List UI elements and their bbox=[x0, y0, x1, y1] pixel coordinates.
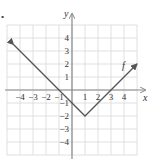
bullet-marker: • bbox=[1, 12, 4, 22]
y-tick-label: 4 bbox=[65, 33, 70, 43]
y-tick-label: −4 bbox=[59, 137, 69, 147]
x-tick-label: 3 bbox=[109, 92, 114, 102]
y-tick-label: −3 bbox=[59, 124, 69, 134]
y-tick-label: 2 bbox=[65, 59, 70, 69]
x-tick-label: −2 bbox=[41, 92, 51, 102]
x-tick-label: 4 bbox=[122, 92, 127, 102]
curve-f-path bbox=[14, 45, 138, 117]
y-tick-label: 3 bbox=[65, 46, 70, 56]
x-tick-label: −4 bbox=[15, 92, 25, 102]
graph: • −4−3−2−112344321−1−2−3−4 x y f bbox=[0, 0, 156, 160]
x-axis-label: x bbox=[142, 92, 148, 103]
x-tick-label: −3 bbox=[28, 92, 38, 102]
curve-label-f: f bbox=[122, 60, 126, 71]
y-tick-label: 1 bbox=[65, 72, 70, 82]
x-tick-label: 1 bbox=[83, 92, 88, 102]
y-axis-label: y bbox=[63, 8, 69, 19]
y-tick-label: −2 bbox=[59, 111, 69, 121]
function-curve-f bbox=[14, 45, 138, 117]
